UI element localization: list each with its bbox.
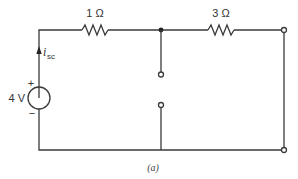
open-terminal-bottom-right (282, 148, 287, 153)
wire-top-left (39, 30, 82, 98)
resistor-3ohm (208, 25, 234, 35)
open-terminal-middle-upper (159, 72, 164, 77)
open-terminal-top-right (282, 28, 287, 33)
circuit-diagram: 1 Ω 3 Ω 4 V + − i sc (a) (0, 0, 298, 179)
figure-caption: (a) (147, 162, 159, 174)
source-voltage-label: 4 V (8, 92, 25, 104)
source-minus-sign: − (29, 107, 35, 119)
wire-bottom (39, 109, 282, 150)
current-arrow-icon (36, 46, 41, 54)
resistor-2-label: 3 Ω (212, 7, 229, 19)
source-plus-sign: + (28, 77, 34, 89)
current-subscript: sc (47, 52, 55, 61)
resistor-1-label: 1 Ω (86, 7, 103, 19)
current-symbol: i (43, 45, 46, 59)
open-terminal-middle-lower (159, 103, 164, 108)
resistor-1ohm (82, 25, 108, 35)
